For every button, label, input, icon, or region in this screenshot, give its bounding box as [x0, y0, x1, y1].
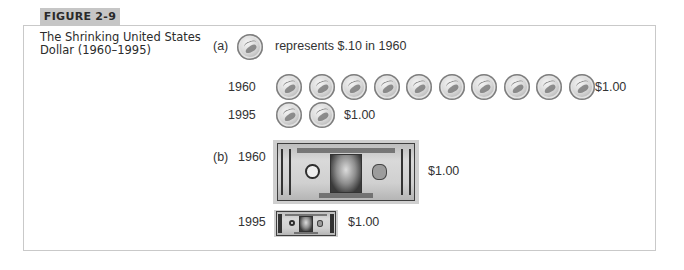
dime-coin-icon [471, 74, 497, 100]
part-a-marker: (a) [213, 39, 228, 53]
part-b-marker: (b) [213, 150, 228, 164]
dime-coin-icon [439, 74, 465, 100]
dime-coin-icon [309, 74, 335, 100]
dime-coin-icon [276, 102, 302, 128]
bill-1960-value: $1.00 [428, 164, 459, 178]
figure-caption: The Shrinking United States Dollar (1960… [40, 31, 215, 57]
coin-row-1960 [276, 74, 595, 100]
bill-1960-year: 1960 [238, 150, 266, 164]
dime-coin-icon [569, 74, 595, 100]
dollar-bill-icon [273, 140, 419, 204]
dollar-bill-icon-small [274, 210, 338, 237]
dime-coin-icon [341, 74, 367, 100]
legend-text: represents $.10 in 1960 [275, 39, 406, 53]
coin-row-1995 [276, 102, 335, 128]
dime-coin-icon [309, 102, 335, 128]
bill-1995-value: $1.00 [348, 215, 379, 229]
bill-1995-year: 1995 [238, 215, 266, 229]
row-1960-year: 1960 [228, 80, 256, 94]
figure-frame [23, 25, 656, 251]
dime-coin-icon [237, 34, 263, 60]
row-1995-value: $1.00 [344, 108, 375, 122]
dime-coin-icon [536, 74, 562, 100]
figure-label: FIGURE 2-9 [40, 8, 120, 26]
dime-coin-icon [406, 74, 432, 100]
row-1995-year: 1995 [228, 108, 256, 122]
dime-coin-icon [276, 74, 302, 100]
row-1960-value: $1.00 [595, 80, 626, 94]
dime-coin-icon [504, 74, 530, 100]
dime-coin-icon [374, 74, 400, 100]
